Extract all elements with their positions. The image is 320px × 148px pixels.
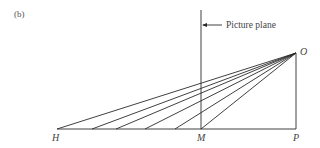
picture-plane-label: Picture plane bbox=[226, 20, 276, 30]
sight-ray bbox=[92, 53, 296, 129]
point-label-h: H bbox=[51, 132, 60, 143]
perspective-diagram: Picture plane O H M P bbox=[0, 0, 320, 148]
point-label-m: M bbox=[196, 132, 206, 143]
sight-ray bbox=[201, 53, 296, 129]
arrowhead-icon bbox=[202, 23, 207, 27]
point-label-o: O bbox=[300, 46, 307, 57]
sight-ray bbox=[145, 53, 296, 129]
sight-ray bbox=[116, 53, 296, 129]
sight-ray bbox=[57, 53, 296, 129]
point-label-p: P bbox=[292, 132, 299, 143]
sight-rays bbox=[57, 53, 296, 129]
